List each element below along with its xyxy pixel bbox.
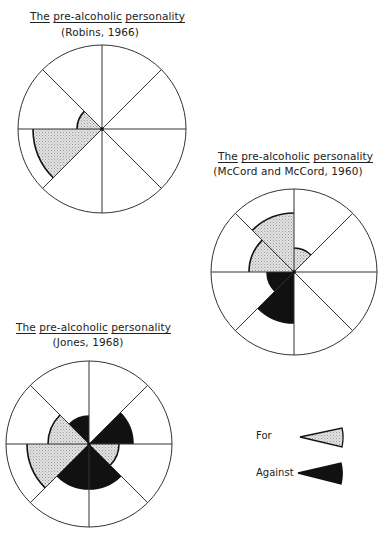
diagram-subtitle: (Jones, 1968) bbox=[8, 336, 168, 348]
title-word: The bbox=[218, 150, 238, 162]
title-word: The bbox=[30, 10, 50, 22]
rose-diagram-1 bbox=[18, 45, 186, 213]
center-dot bbox=[292, 270, 296, 274]
wedge-for bbox=[33, 129, 102, 178]
diagram-title: The pre-alcoholic personality bbox=[30, 10, 170, 22]
center-dot bbox=[100, 127, 104, 131]
title-word: personality bbox=[111, 321, 171, 333]
legend-label-against: Against bbox=[256, 467, 294, 478]
diagram-canvas bbox=[0, 0, 383, 536]
rose-diagram-2 bbox=[211, 189, 377, 355]
diagram-title: The pre-alcoholic personality bbox=[218, 150, 358, 162]
title-word: pre-alcoholic bbox=[53, 10, 122, 22]
wedge-for bbox=[294, 248, 311, 272]
title-word: personality bbox=[125, 10, 185, 22]
legend-label-for: For bbox=[256, 430, 272, 441]
wedge-for bbox=[77, 111, 102, 129]
title-word: pre-alcoholic bbox=[241, 150, 310, 162]
diagram-subtitle: (McCord and McCord, 1960) bbox=[208, 165, 368, 177]
center-dot bbox=[87, 442, 91, 446]
title-word: The bbox=[16, 321, 36, 333]
title-word: personality bbox=[313, 150, 373, 162]
diagram-subtitle: (Robins, 1966) bbox=[20, 26, 180, 38]
title-word: pre-alcoholic bbox=[39, 321, 108, 333]
legend bbox=[298, 428, 343, 484]
diagrams-layer bbox=[6, 45, 377, 527]
legend-swatch-against bbox=[298, 463, 342, 484]
legend-swatch-for bbox=[300, 428, 343, 447]
wedge-against bbox=[89, 413, 133, 444]
rose-diagram-3 bbox=[6, 361, 172, 527]
diagram-title: The pre-alcoholic personality bbox=[16, 321, 156, 333]
